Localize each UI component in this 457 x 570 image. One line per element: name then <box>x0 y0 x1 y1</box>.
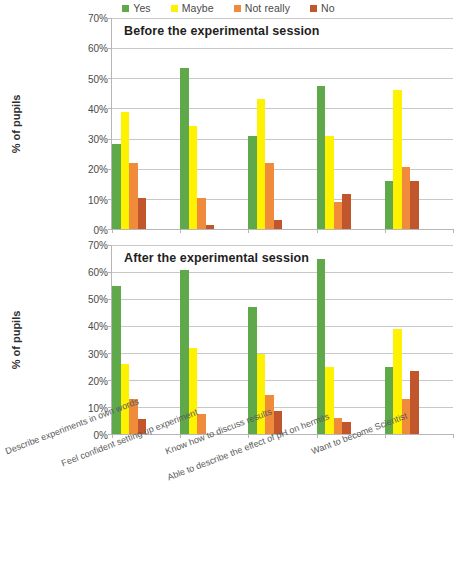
bar-not-really <box>334 418 343 434</box>
bar-no <box>274 220 283 229</box>
y-tick-after-30: 30% <box>68 348 108 359</box>
bar-group <box>112 18 180 229</box>
bar-maybe <box>257 99 266 229</box>
x-axis-category-labels: Describe experiments in own wordsFeel co… <box>0 437 457 570</box>
bar-not-really <box>197 198 206 229</box>
bar-yes <box>385 181 394 229</box>
y-tick-before-60: 60% <box>68 43 108 54</box>
legend-item-not-really: Not really <box>234 2 290 14</box>
y-tick-before-40: 40% <box>68 103 108 114</box>
x-tickmark <box>385 229 386 233</box>
bar-not-really <box>402 167 411 229</box>
plot-area-before: Before the experimental session <box>111 18 453 230</box>
bar-no <box>138 198 147 229</box>
bar-no <box>410 181 419 229</box>
bar-group <box>317 18 385 229</box>
y-axis-label-after: % of pupils <box>10 311 22 370</box>
bar-maybe <box>325 367 334 434</box>
bar-maybe <box>189 126 198 229</box>
legend-label-no: No <box>321 2 335 14</box>
bar-group-bars <box>248 245 316 434</box>
bar-maybe <box>325 136 334 229</box>
y-tick-before-0: 0% <box>68 225 108 236</box>
x-tickmark <box>453 229 454 233</box>
bar-group-bars <box>317 18 385 229</box>
y-tick-after-70: 70% <box>68 240 108 251</box>
bar-group <box>385 245 453 434</box>
y-tick-after-50: 50% <box>68 294 108 305</box>
bar-yes <box>317 259 326 435</box>
x-tickmark <box>317 229 318 233</box>
bar-no <box>206 225 215 229</box>
bar-group-bars <box>317 245 385 434</box>
bar-group-bars <box>180 18 248 229</box>
bar-maybe <box>393 90 402 229</box>
chart-panel-before: % of pupils 70%60%50%40%30%20%10%0% Befo… <box>0 18 457 230</box>
x-tickmark <box>112 229 113 233</box>
bar-yes <box>248 136 257 229</box>
bar-group <box>317 245 385 434</box>
y-tick-after-60: 60% <box>68 267 108 278</box>
bar-group-bars <box>385 245 453 434</box>
bar-group <box>248 18 316 229</box>
bar-group-bars <box>248 18 316 229</box>
bar-maybe <box>257 354 266 434</box>
y-tick-before-50: 50% <box>68 73 108 84</box>
chart-title-before: Before the experimental session <box>124 24 320 38</box>
y-tick-before-20: 20% <box>68 164 108 175</box>
legend-swatch-yes <box>122 5 129 12</box>
legend-swatch-maybe <box>171 5 178 12</box>
legend-label-maybe: Maybe <box>182 2 214 14</box>
chart-title-after: After the experimental session <box>124 251 309 265</box>
bar-not-really <box>265 163 274 229</box>
legend-item-yes: Yes <box>122 2 150 14</box>
x-tickmark <box>248 229 249 233</box>
bar-yes <box>112 144 121 229</box>
bar-group-bars <box>180 245 248 434</box>
x-tickmark <box>180 229 181 233</box>
bar-group <box>180 245 248 434</box>
y-tick-before-30: 30% <box>68 134 108 145</box>
bar-maybe <box>189 348 198 434</box>
legend-swatch-not-really <box>234 5 241 12</box>
y-tick-before-10: 10% <box>68 194 108 205</box>
y-tick-after-40: 40% <box>68 321 108 332</box>
bar-yes <box>180 68 189 229</box>
y-axis-ticks-before: 70%60%50%40%30%20%10%0% <box>68 18 108 230</box>
bar-maybe <box>121 112 130 229</box>
bar-yes <box>317 86 326 229</box>
bar-no <box>342 194 351 229</box>
legend-swatch-no <box>310 5 317 12</box>
bar-group <box>385 18 453 229</box>
chart-panel-after: % of pupils 70%60%50%40%30%20%10%0% Afte… <box>0 245 457 435</box>
bar-no <box>410 371 419 434</box>
bar-group <box>248 245 316 434</box>
legend-item-maybe: Maybe <box>171 2 214 14</box>
legend-label-yes: Yes <box>133 2 150 14</box>
legend-item-no: No <box>310 2 335 14</box>
bar-group-bars <box>112 18 180 229</box>
y-axis-label-before: % of pupils <box>10 95 22 154</box>
bar-group <box>180 18 248 229</box>
bar-not-really <box>129 163 138 229</box>
legend-label-not-really: Not really <box>245 2 290 14</box>
y-tick-before-70: 70% <box>68 13 108 24</box>
bar-not-really <box>334 202 343 229</box>
bar-group-bars <box>385 18 453 229</box>
y-tick-after-20: 20% <box>68 375 108 386</box>
y-axis-ticks-after: 70%60%50%40%30%20%10%0% <box>68 245 108 435</box>
plot-area-after: After the experimental session <box>111 245 453 435</box>
